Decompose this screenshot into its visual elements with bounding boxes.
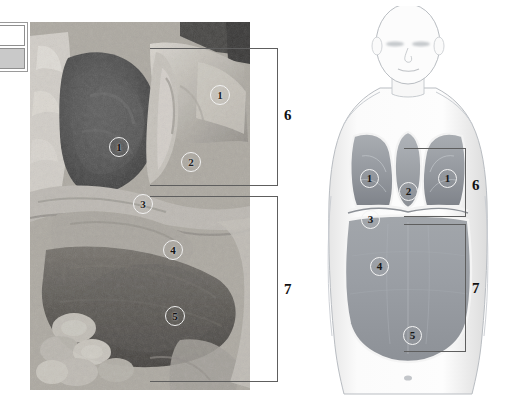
photo-bracket-7-number: 7 — [284, 282, 292, 297]
photo-bracket-6-number: 6 — [284, 108, 292, 123]
legend-swatch-box — [0, 22, 28, 72]
photo-bracket-6 — [150, 48, 278, 186]
schematic-label-3-diaphragm: 3 — [361, 210, 380, 229]
schematic-bracket-7 — [404, 224, 466, 352]
legend-cell-gray — [0, 48, 25, 69]
navel — [404, 375, 412, 380]
schematic-bracket-6 — [404, 148, 466, 217]
photo-bracket-7 — [150, 196, 278, 382]
legend-cell-white — [0, 25, 25, 46]
schematic-label-1-right-lung: 1 — [360, 169, 379, 188]
photo-label-1-lung: 1 — [109, 137, 129, 157]
anatomy-figure: 1 1 2 3 4 5 6 7 — [0, 0, 513, 412]
schematic-label-4-abdomen: 4 — [370, 257, 389, 276]
schematic-bracket-7-number: 7 — [472, 281, 480, 296]
schematic-bracket-6-number: 6 — [472, 178, 480, 193]
